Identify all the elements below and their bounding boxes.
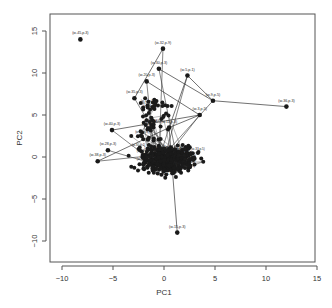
edge-line (169, 128, 177, 233)
svg-text:(w-10,p-3): (w-10,p-3) (144, 119, 158, 123)
svg-text:(w-40,p-3): (w-40,p-3) (181, 164, 195, 168)
x-tick-label: 0 (162, 274, 166, 283)
data-point (175, 230, 180, 235)
point-label: (w-38,p-3) (90, 153, 106, 157)
y-tick-label: 5 (30, 113, 39, 117)
y-tick-label: −10 (30, 235, 39, 248)
point-label: (w-28,p-3) (100, 142, 116, 146)
x-tick-label: −5 (109, 274, 118, 283)
plot-area: (w-4,p-3)(w-14,p-5)(w-26,p-4)(w-16,p-1)(… (72, 31, 294, 235)
pca-scatter-plot: (w-4,p-3)(w-14,p-5)(w-26,p-4)(w-16,p-1)(… (0, 0, 332, 308)
data-point (284, 104, 289, 109)
data-point (211, 98, 216, 103)
point-label: (w-35,p-3) (126, 90, 142, 94)
x-axis: −10−5051015 (56, 266, 322, 283)
y-axis: −10−5051015 (30, 27, 46, 248)
data-point (78, 37, 83, 42)
data-point (110, 128, 115, 133)
data-point (157, 67, 162, 72)
point-label: (w-5,p-1) (180, 68, 194, 72)
y-tick-label: 15 (30, 27, 39, 35)
data-point (132, 96, 137, 101)
point-label: (w-45,p-3) (72, 31, 88, 35)
point-label: (w-3,p-5) (193, 107, 207, 111)
data-point (167, 125, 172, 130)
data-point (144, 79, 149, 84)
data-point (95, 159, 100, 164)
y-axis-label: PC2 (15, 130, 24, 146)
x-tick-label: 15 (313, 274, 321, 283)
point-label: (w-36,p-3) (278, 99, 294, 103)
data-point (185, 73, 190, 78)
y-tick-label: −5 (30, 195, 39, 204)
x-tick-label: 5 (213, 274, 217, 283)
y-tick-label: 10 (30, 69, 39, 77)
x-axis-label: PC1 (156, 288, 172, 297)
x-tick-label: 10 (262, 274, 270, 283)
y-tick-label: 0 (30, 155, 39, 159)
point-label: (w-15,p-3) (169, 225, 185, 229)
point-label: (w-20,p-3) (138, 73, 154, 77)
svg-text:(w-3,p-2): (w-3,p-2) (183, 157, 195, 161)
point-label: (w-11,p-3) (161, 120, 177, 124)
svg-text:(w-6,p-2): (w-6,p-2) (142, 101, 154, 105)
point-label: (w-32,p-9) (155, 41, 171, 45)
edge-line (213, 101, 286, 107)
data-point (106, 148, 111, 153)
data-point (197, 113, 202, 118)
data-point (161, 46, 166, 51)
point-label: (w-40,p-3) (104, 122, 120, 126)
point-label: (w-30,p-3) (151, 61, 167, 65)
x-tick-label: −10 (56, 274, 69, 283)
point-label: (w-9,p-5) (206, 93, 220, 97)
